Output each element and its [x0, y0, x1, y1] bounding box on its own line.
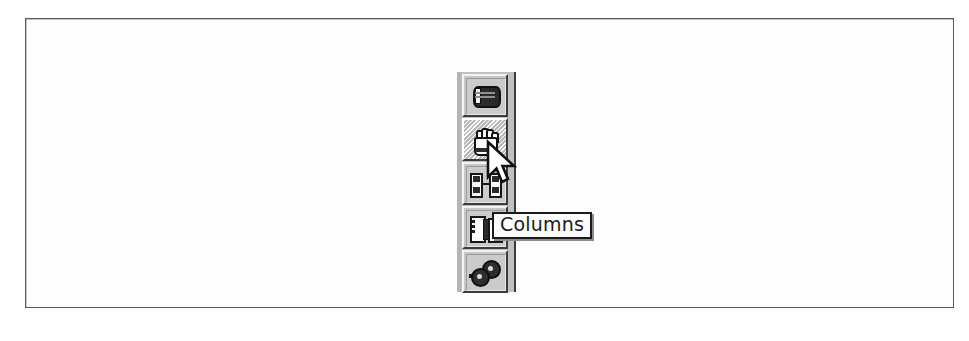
objects-gears-icon [468, 257, 502, 287]
toolbar-button-objects[interactable]: Objects [462, 250, 508, 293]
toolbar-button-join[interactable]: Join [462, 162, 508, 205]
screenshot-frame: Table Hand [25, 18, 954, 308]
hand-pan-icon [468, 125, 502, 155]
toolbar-button-table[interactable]: Table [462, 74, 508, 117]
toolbar-button-hand[interactable]: Hand [462, 118, 508, 161]
join-relation-icon [468, 169, 502, 199]
tool-palette-button-stack: Table Hand [462, 74, 508, 294]
tooltip-text: Columns [500, 215, 584, 234]
tooltip: Columns [492, 212, 592, 239]
tool-palette: Table Hand [457, 72, 516, 292]
database-table-icon [468, 81, 502, 111]
